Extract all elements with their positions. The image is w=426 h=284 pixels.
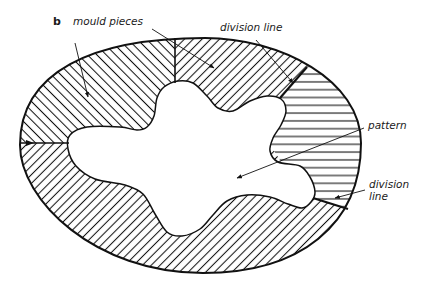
panel-letter: b (53, 15, 61, 28)
label-division-line-top: division line (220, 21, 282, 33)
label-mould-pieces: mould pieces (73, 15, 144, 27)
label-division-line-bottom-1: division (369, 178, 409, 190)
label-pattern: pattern (367, 119, 407, 131)
mould-diagram: b mould pieces division line pattern div… (0, 0, 426, 284)
label-division-line-bottom-2: line (369, 190, 388, 202)
